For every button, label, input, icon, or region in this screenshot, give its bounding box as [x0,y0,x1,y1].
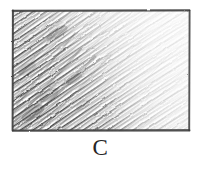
pencil-shading-svg [11,9,191,132]
figure-caption-label: C [0,136,201,160]
sketch-figure: C [0,0,201,173]
sketched-rectangle [11,9,191,132]
